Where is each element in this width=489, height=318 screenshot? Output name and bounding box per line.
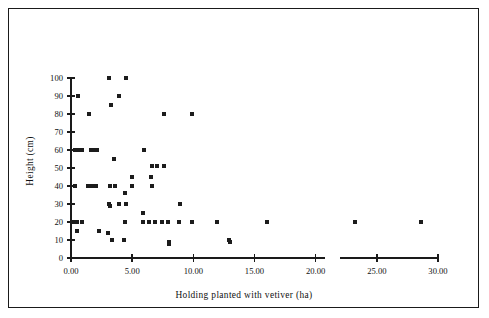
x-tick-label-10.00: 10.00 <box>184 266 203 276</box>
data-point <box>124 202 128 206</box>
x-tick-label-15.00: 15.00 <box>245 266 264 276</box>
x-tick-label-20.00: 20.00 <box>306 266 325 276</box>
data-point <box>75 229 79 233</box>
data-point <box>117 202 121 206</box>
data-point <box>178 202 182 206</box>
y-axis-title: Height (cm) <box>25 136 36 185</box>
data-point <box>108 184 112 188</box>
data-point <box>97 229 101 233</box>
y-tick-label-60: 60 <box>54 145 63 155</box>
axes-group <box>71 78 438 258</box>
data-point <box>150 164 154 168</box>
data-point <box>190 112 194 116</box>
data-point <box>110 238 114 242</box>
data-point <box>353 220 357 224</box>
x-tick-label-0.00: 0.00 <box>63 266 78 276</box>
data-point <box>109 103 113 107</box>
ticks-group <box>67 78 438 262</box>
data-point <box>87 112 91 116</box>
data-point <box>147 220 151 224</box>
data-point <box>162 164 166 168</box>
data-point <box>177 220 181 224</box>
data-point <box>123 191 127 195</box>
y-tick-label-80: 80 <box>54 109 63 119</box>
y-tick-label-20: 20 <box>54 217 63 227</box>
data-point <box>419 220 423 224</box>
y-tick-label-40: 40 <box>54 181 63 191</box>
y-tick-label-30: 30 <box>54 199 63 209</box>
y-tick-label-70: 70 <box>54 127 63 137</box>
data-point <box>80 148 84 152</box>
data-point <box>117 94 121 98</box>
chart-svg: 01020304050607080901000.005.0010.0015.00… <box>9 9 480 309</box>
x-tick-label-30.00: 30.00 <box>428 266 447 276</box>
data-point <box>162 112 166 116</box>
data-point <box>130 175 134 179</box>
data-point <box>124 76 128 80</box>
data-point <box>130 184 134 188</box>
y-tick-label-10: 10 <box>54 235 63 245</box>
data-point <box>166 220 170 224</box>
data-point <box>90 184 94 188</box>
data-point <box>160 220 164 224</box>
y-tick-label-0: 0 <box>59 253 63 263</box>
data-point <box>95 148 99 152</box>
data-point <box>228 240 232 244</box>
data-point <box>73 184 77 188</box>
x-tick-label-5.00: 5.00 <box>125 266 140 276</box>
x-axis-title: Holding planted with vetiver (ha) <box>175 290 312 301</box>
data-point <box>153 220 157 224</box>
data-point <box>86 184 90 188</box>
data-point <box>113 184 117 188</box>
data-point <box>142 148 146 152</box>
figure-frame: 01020304050607080901000.005.0010.0015.00… <box>8 8 479 308</box>
x-tick-label-25.00: 25.00 <box>367 266 386 276</box>
data-point <box>265 220 269 224</box>
data-point <box>141 220 145 224</box>
y-tick-label-90: 90 <box>54 91 63 101</box>
data-point <box>123 220 127 224</box>
data-point <box>76 94 80 98</box>
scatter-plot: 01020304050607080901000.005.0010.0015.00… <box>9 9 480 309</box>
y-tick-label-50: 50 <box>54 163 63 173</box>
data-point <box>108 204 112 208</box>
y-tick-label-100: 100 <box>50 73 63 83</box>
data-point <box>215 220 219 224</box>
data-point <box>167 242 171 246</box>
data-point <box>112 157 116 161</box>
data-point <box>80 220 84 224</box>
data-point <box>155 164 159 168</box>
data-point <box>94 184 98 188</box>
data-point <box>106 231 110 235</box>
data-point <box>122 238 126 242</box>
data-point <box>75 220 79 224</box>
data-point <box>149 175 153 179</box>
data-point <box>107 76 111 80</box>
data-point <box>141 211 145 215</box>
data-markers-group <box>71 76 422 246</box>
data-point <box>190 220 194 224</box>
data-point <box>150 184 154 188</box>
data-point <box>76 148 80 152</box>
